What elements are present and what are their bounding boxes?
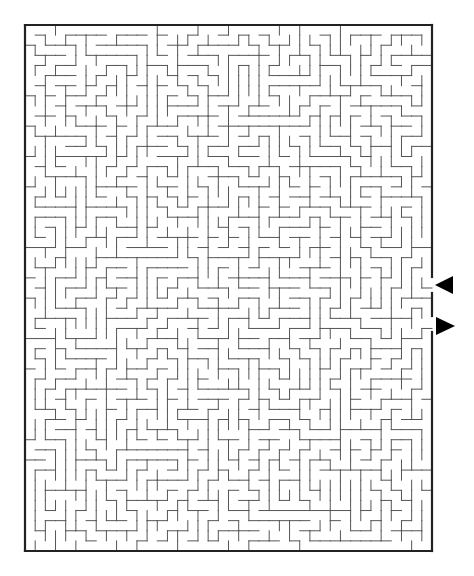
exit-arrow-icon bbox=[436, 317, 455, 335]
maze-walls bbox=[25, 25, 432, 551]
maze-puzzle bbox=[0, 0, 474, 576]
entry-arrow-icon bbox=[435, 276, 453, 294]
maze-grid bbox=[0, 0, 474, 576]
